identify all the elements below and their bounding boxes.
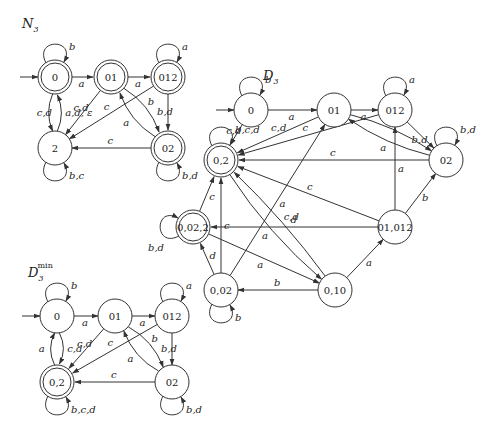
transition-label: a <box>380 142 386 153</box>
transition-label: b,c <box>69 170 85 181</box>
state-node: 0,2 <box>40 365 74 399</box>
state-label: 01 <box>105 72 118 83</box>
transition-label: a <box>82 317 88 328</box>
transition: b <box>405 174 435 214</box>
transition: a <box>132 316 155 328</box>
transition: a <box>128 77 150 89</box>
transition-label: c <box>108 135 114 146</box>
transition: c <box>75 369 155 382</box>
transition-label: a <box>289 111 295 122</box>
transition: b,d <box>435 124 476 146</box>
transition-label: a <box>79 78 85 89</box>
transition-label: b,d <box>460 124 476 135</box>
transition-label: c <box>303 122 309 133</box>
transition-label: a <box>123 117 129 128</box>
transition: b,d <box>161 333 177 365</box>
state-label: 0,02 <box>210 285 232 296</box>
transition-label: b <box>422 192 428 203</box>
state-label: 0,2 <box>213 155 229 166</box>
state-label: 0 <box>248 105 254 116</box>
transition: a <box>157 41 188 63</box>
transition-label: a <box>182 41 188 52</box>
automaton-title: N3 <box>21 16 38 34</box>
state-label: 0 <box>54 311 60 322</box>
transition-label: a <box>409 74 415 85</box>
transition: a <box>161 280 192 302</box>
transition-label: a <box>361 111 367 122</box>
state-node: 0,02 <box>204 273 238 307</box>
state-label: 0,02,2 <box>177 222 209 233</box>
transition-label: a <box>262 230 268 241</box>
transition: a <box>347 239 384 277</box>
transition-label: b,d <box>157 106 173 117</box>
transition-label: b <box>69 41 75 52</box>
transition-label: a <box>127 353 133 364</box>
transition: c,d <box>37 94 53 131</box>
transition: b,d <box>157 94 173 130</box>
transition-label: b,d <box>148 242 164 253</box>
transition-label: a <box>135 78 141 89</box>
state-node: 0 <box>20 60 72 94</box>
transition: c <box>239 147 429 160</box>
transition-label: b <box>235 312 241 323</box>
state-label: 01 <box>328 105 341 116</box>
automata-diagram: baaac,da,d, εc,dcbab,dcb,db,cbaaab,c,db,… <box>0 0 491 434</box>
state-label: 02 <box>440 155 453 166</box>
state-node: 02 <box>155 365 189 399</box>
transition: b <box>128 327 163 367</box>
transition-label: b <box>152 333 158 344</box>
state-label: 012 <box>385 105 404 116</box>
state-label: 2 <box>52 143 58 154</box>
transition-label: c <box>307 181 313 192</box>
state-node: 01 <box>98 299 132 333</box>
transition: c <box>200 177 216 212</box>
state-label: 012 <box>158 72 177 83</box>
state-label: 01,012 <box>378 222 413 233</box>
transition-label: a <box>39 343 45 354</box>
transition-label: c <box>107 337 113 348</box>
transition: b <box>238 277 318 290</box>
state-label: 01 <box>109 311 122 322</box>
state-node: 0,2 <box>204 143 238 177</box>
transition-label: c <box>224 220 230 231</box>
transition: a <box>230 124 325 275</box>
transition: d <box>200 243 216 274</box>
transition-label: c,d <box>37 107 52 118</box>
state-node: 01 <box>94 60 128 94</box>
transition-label: a <box>140 317 146 328</box>
transition: a <box>384 74 415 96</box>
state-node: 012 <box>151 60 185 94</box>
state-node: 0 <box>216 93 268 127</box>
transition: b <box>44 41 76 63</box>
transition: b,d <box>157 162 198 181</box>
transition-label: c <box>209 191 215 202</box>
transition: c <box>238 166 379 220</box>
transition: b,c <box>44 162 85 181</box>
state-node: 012 <box>155 299 189 333</box>
state-label: 0,2 <box>49 377 65 388</box>
state-label: 0 <box>52 72 58 83</box>
transition: b <box>46 280 78 302</box>
transition-label: a <box>186 280 192 291</box>
state-label: 0,10 <box>324 285 346 296</box>
transition-label: c,d <box>74 102 89 113</box>
transition: c <box>221 178 230 273</box>
transition-label: c,d <box>226 125 241 136</box>
transition: b,d <box>148 216 179 253</box>
transition-label: d <box>210 250 216 261</box>
transition-label: b <box>71 280 77 291</box>
state-node: 2 <box>38 131 72 165</box>
transition: a <box>72 77 93 89</box>
transition-label: b,d <box>161 343 177 354</box>
transition: a <box>395 127 404 210</box>
state-label: 02 <box>166 377 179 388</box>
state-node: 01,012 <box>378 210 413 244</box>
transition-label: b,c,d <box>71 404 96 415</box>
transition: c,d <box>226 125 242 145</box>
state-label: 02 <box>162 143 175 154</box>
transition-label: c <box>330 147 336 158</box>
state-node: 02 <box>151 131 185 165</box>
transition-label: a <box>398 163 404 174</box>
state-node: 02 <box>429 143 463 177</box>
transition-label: c,d <box>77 338 92 349</box>
